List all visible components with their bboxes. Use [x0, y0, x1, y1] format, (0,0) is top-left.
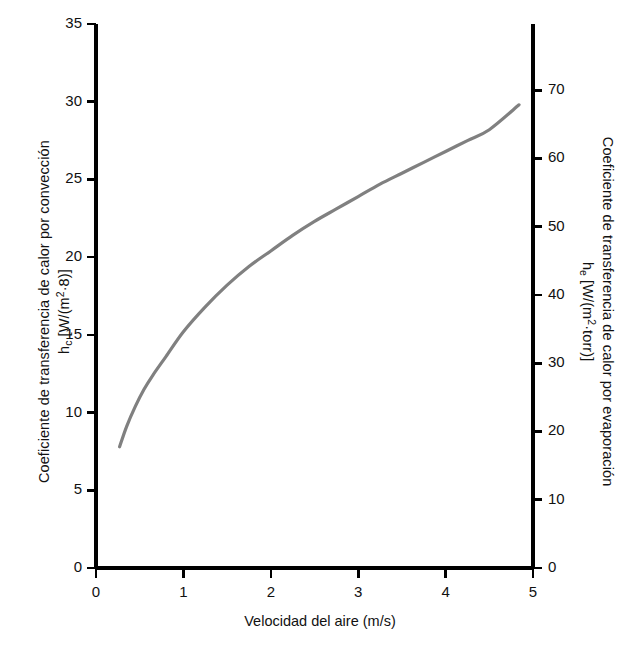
left-tick-label: 15	[24, 325, 82, 342]
series-group	[120, 105, 519, 447]
chart-figure: Coeficiente de transferencia de calor po…	[0, 0, 640, 645]
data-curve	[120, 105, 519, 447]
x-tick-label: 1	[158, 583, 208, 600]
x-tick-label: 3	[333, 583, 383, 600]
left-tick-label: 10	[24, 403, 82, 420]
axis-lines	[96, 24, 533, 568]
right-tick-label: 20	[548, 421, 596, 438]
x-tick-label: 4	[421, 583, 471, 600]
left-tick-label: 30	[24, 92, 82, 109]
left-tick-label: 20	[24, 247, 82, 264]
right-tick-label: 40	[548, 285, 596, 302]
left-tick-label: 5	[24, 480, 82, 497]
x-tick-label: 2	[246, 583, 296, 600]
x-tick-label: 0	[71, 583, 121, 600]
left-tick-label: 25	[24, 169, 82, 186]
right-tick-label: 60	[548, 148, 596, 165]
right-tick-label: 30	[548, 353, 596, 370]
right-tick-label: 10	[548, 490, 596, 507]
plot-area	[0, 0, 640, 645]
x-tick-label: 5	[508, 583, 558, 600]
left-tick-label: 0	[24, 558, 82, 575]
right-tick-label: 0	[548, 558, 596, 575]
right-tick-label: 50	[548, 217, 596, 234]
right-tick-label: 70	[548, 80, 596, 97]
left-tick-label: 35	[24, 14, 82, 31]
